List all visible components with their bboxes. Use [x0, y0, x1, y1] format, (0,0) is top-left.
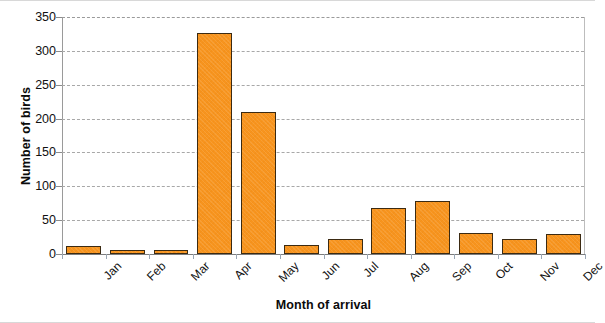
x-axis-tick-label: Jun — [318, 259, 342, 283]
y-axis-tick — [56, 152, 62, 153]
y-axis-tick — [56, 186, 62, 187]
bar-texture — [416, 202, 449, 253]
x-axis-tick — [498, 254, 499, 259]
bar-texture — [242, 113, 275, 253]
x-axis-tick — [106, 254, 107, 259]
y-axis-tick-label: 250 — [14, 78, 56, 92]
y-axis-tick — [56, 85, 62, 86]
x-axis-tick-label: Aug — [406, 259, 431, 284]
x-axis-tick — [367, 254, 368, 259]
x-axis-tick — [541, 254, 542, 259]
x-axis-tick — [280, 254, 281, 259]
bar-texture — [460, 234, 493, 253]
bar-texture — [111, 251, 144, 253]
x-axis-tick-label: Jan — [100, 259, 124, 283]
y-axis-tick — [56, 51, 62, 52]
bar-texture — [67, 247, 100, 253]
x-axis-tick-label: May — [276, 259, 302, 285]
bars-layer — [62, 17, 585, 254]
x-axis-tick-label: Sep — [450, 259, 475, 284]
bar-dec — [546, 234, 581, 254]
y-axis-tick-label: 150 — [14, 145, 56, 159]
bar-apr — [197, 33, 232, 254]
bar-jul — [328, 239, 363, 254]
x-axis-tick — [585, 254, 586, 259]
y-axis-tick-label: 200 — [14, 112, 56, 126]
y-axis-tick-label: 350 — [14, 10, 56, 24]
bar-nov — [502, 239, 537, 254]
bar-texture — [503, 240, 536, 253]
bar-texture — [155, 251, 188, 253]
bar-jan — [66, 246, 101, 254]
x-axis-tick-label: Apr — [231, 259, 254, 282]
x-axis-tick-label: Mar — [188, 259, 213, 284]
y-axis-tick-label: 300 — [14, 44, 56, 58]
x-axis-tick-label: Oct — [493, 259, 516, 282]
x-axis-tick-label: Feb — [144, 259, 169, 284]
y-axis-tick-label: 100 — [14, 179, 56, 193]
x-axis-tick — [193, 254, 194, 259]
bar-texture — [372, 209, 405, 253]
bar-may — [241, 112, 276, 254]
y-axis-tick — [56, 220, 62, 221]
x-axis-tick — [149, 254, 150, 259]
x-axis-tick-label: Nov — [537, 259, 562, 284]
x-axis-title: Month of arrival — [62, 298, 585, 312]
y-axis-tick — [56, 119, 62, 120]
bar-jun — [284, 245, 319, 254]
y-axis-tick — [56, 17, 62, 18]
x-axis-tick — [62, 254, 63, 259]
x-axis-tick-label: Jul — [361, 259, 382, 280]
x-axis-tick — [454, 254, 455, 259]
y-axis-tick-label: 50 — [14, 213, 56, 227]
bar-texture — [547, 235, 580, 253]
bar-sep — [415, 201, 450, 254]
y-axis-tick-label-group: 050100150200250300350 — [14, 1, 56, 323]
x-axis-tick — [236, 254, 237, 259]
bar-texture — [198, 34, 231, 253]
bar-aug — [371, 208, 406, 254]
bar-oct — [459, 233, 494, 254]
bar-texture — [285, 246, 318, 253]
bar-texture — [329, 240, 362, 253]
x-axis-tick-label: Dec — [580, 259, 605, 284]
x-axis-tick — [411, 254, 412, 259]
x-axis-tick-label-group: JanFebMarAprMayJunJulAugSepOctNovDec — [62, 259, 585, 299]
y-axis-tick-label: 0 — [14, 247, 56, 261]
x-axis-tick — [324, 254, 325, 259]
